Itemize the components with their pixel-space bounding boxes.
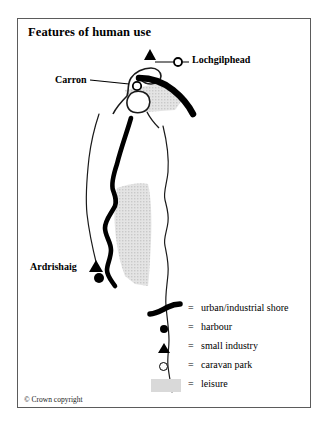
coastline-west-lower <box>86 114 99 266</box>
leader-line-carron <box>90 80 129 84</box>
legend-item-leisure: = leisure <box>146 376 306 395</box>
map-legend: = urban/industrial shore = harbour = sma… <box>146 300 306 395</box>
legend-item-caravan-park: = caravan park <box>146 357 306 376</box>
caravan-park-marker-carron <box>133 82 141 90</box>
small-industry-icon <box>146 338 184 357</box>
caravan-park-marker-lochgilphead <box>174 58 182 66</box>
legend-equals: = <box>188 359 194 370</box>
caravan-park-icon <box>146 357 184 376</box>
legend-label: caravan park <box>201 359 252 370</box>
urban-industrial-shore-icon <box>146 300 184 319</box>
legend-item-small-industry: = small industry <box>146 338 306 357</box>
legend-equals: = <box>188 302 194 313</box>
legend-equals: = <box>188 340 194 351</box>
carron-inlet <box>127 91 150 113</box>
copyright-notice: © Crown copyright <box>24 395 83 404</box>
leisure-area-central <box>114 183 151 286</box>
legend-item-urban-industrial-shore: = urban/industrial shore <box>146 300 306 319</box>
legend-equals: = <box>188 378 194 389</box>
small-industry-marker-ardrishaig <box>89 260 103 272</box>
harbour-marker-ardrishaig <box>94 273 104 283</box>
legend-label: small industry <box>201 340 258 351</box>
legend-equals: = <box>188 321 194 332</box>
leisure-icon <box>146 376 184 395</box>
small-industry-marker-lochgilphead <box>144 49 156 60</box>
legend-label: harbour <box>201 321 232 332</box>
map-label-ardrishaig: Ardrishaig <box>30 261 77 272</box>
legend-label: urban/industrial shore <box>201 302 288 313</box>
legend-label: leisure <box>201 378 228 389</box>
map-label-lochgilphead: Lochgilphead <box>192 54 250 65</box>
legend-item-harbour: = harbour <box>146 319 306 338</box>
map-label-carron: Carron <box>55 74 86 85</box>
coastline-inlet-east <box>147 112 159 128</box>
map-figure: Features of human use <box>0 0 330 433</box>
harbour-icon <box>146 319 184 338</box>
